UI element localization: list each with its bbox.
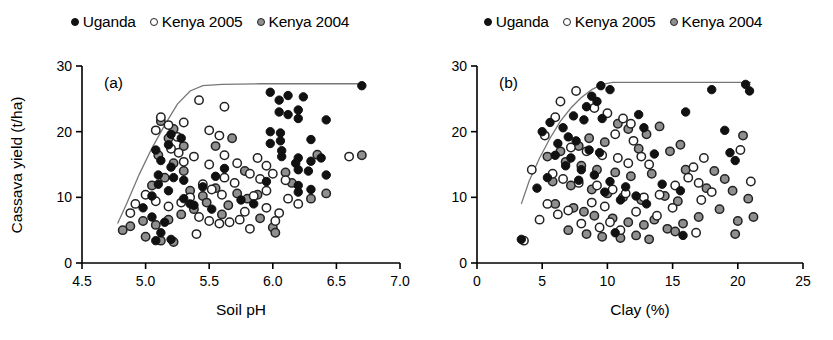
- data-point: [543, 152, 551, 160]
- panel-tag: (b): [499, 74, 518, 91]
- data-point: [177, 210, 185, 218]
- data-point: [700, 154, 708, 162]
- data-point: [208, 205, 216, 213]
- data-point: [271, 229, 279, 237]
- data-point: [307, 185, 315, 193]
- data-point: [126, 209, 134, 217]
- data-point: [632, 231, 640, 239]
- x-axis-label: Clay (%): [610, 301, 669, 318]
- data-point: [284, 91, 292, 99]
- data-point: [642, 200, 650, 208]
- data-point: [250, 200, 258, 208]
- data-point: [190, 152, 198, 160]
- data-point: [167, 235, 175, 243]
- data-point: [749, 213, 757, 221]
- data-point: [152, 146, 160, 154]
- data-point: [676, 187, 684, 195]
- data-point: [220, 173, 228, 181]
- data-point: [645, 235, 653, 243]
- data-point: [266, 88, 274, 96]
- data-point: [666, 147, 674, 155]
- data-point: [726, 148, 734, 156]
- data-point: [582, 103, 590, 111]
- data-point: [601, 188, 609, 196]
- data-point: [307, 157, 315, 165]
- data-point: [266, 127, 274, 135]
- data-point: [294, 114, 302, 122]
- data-point: [632, 208, 640, 216]
- series-kenya-2005: [126, 96, 353, 238]
- data-point: [637, 152, 645, 160]
- data-point: [139, 204, 147, 212]
- data-point: [177, 134, 185, 142]
- data-point: [157, 229, 165, 237]
- data-point: [236, 215, 244, 223]
- data-point: [731, 230, 739, 238]
- data-point: [629, 137, 637, 145]
- data-point: [269, 169, 277, 177]
- y-tick-label: 10: [56, 189, 72, 205]
- data-point: [533, 184, 541, 192]
- data-point: [627, 120, 635, 128]
- data-point: [164, 121, 172, 129]
- data-point: [575, 176, 583, 184]
- data-point: [559, 175, 567, 183]
- data-point: [611, 168, 619, 176]
- data-point: [593, 181, 601, 189]
- data-point: [152, 236, 160, 244]
- data-point: [284, 194, 292, 202]
- data-point: [632, 192, 640, 200]
- data-point: [154, 171, 162, 179]
- data-point: [606, 177, 614, 185]
- data-point: [211, 142, 219, 150]
- data-point: [611, 229, 619, 237]
- data-point: [322, 171, 330, 179]
- data-point: [745, 87, 753, 95]
- data-point: [551, 151, 559, 159]
- data-point: [180, 176, 188, 184]
- data-point: [322, 189, 330, 197]
- data-point: [676, 141, 684, 149]
- data-point: [564, 206, 572, 214]
- x-tick-label: 7.0: [390, 273, 410, 289]
- x-tick-label: 10: [600, 273, 616, 289]
- data-point: [275, 209, 283, 217]
- data-point: [606, 85, 614, 93]
- figure-container: Uganda Kenya 2005 Kenya 2004 01020304.55…: [0, 0, 833, 340]
- data-point: [572, 87, 580, 95]
- data-point: [228, 134, 236, 142]
- data-point: [218, 210, 226, 218]
- data-point: [708, 85, 716, 93]
- x-tick-label: 6.0: [263, 273, 283, 289]
- data-point: [648, 169, 656, 177]
- data-point: [692, 229, 700, 237]
- data-point: [262, 177, 270, 185]
- data-point: [345, 152, 353, 160]
- panel-tag: (a): [104, 74, 123, 91]
- x-tick-label: 5.5: [199, 273, 219, 289]
- data-point: [253, 154, 261, 162]
- data-point: [572, 137, 580, 145]
- data-point: [294, 188, 302, 196]
- data-point: [595, 148, 603, 156]
- data-point: [294, 200, 302, 208]
- data-point: [668, 204, 676, 212]
- data-point: [131, 200, 139, 208]
- data-point: [190, 201, 198, 209]
- data-point: [215, 219, 223, 227]
- data-point: [715, 205, 723, 213]
- data-point: [543, 200, 551, 208]
- data-point: [694, 213, 702, 221]
- data-point: [689, 163, 697, 171]
- data-point: [601, 202, 609, 210]
- data-point: [271, 217, 279, 225]
- data-point: [598, 114, 606, 122]
- data-point: [256, 214, 264, 222]
- data-point: [697, 196, 705, 204]
- data-point: [157, 156, 165, 164]
- data-point: [167, 163, 175, 171]
- data-point: [517, 235, 525, 243]
- data-point: [580, 208, 588, 216]
- data-point: [164, 187, 172, 195]
- data-point: [358, 82, 366, 90]
